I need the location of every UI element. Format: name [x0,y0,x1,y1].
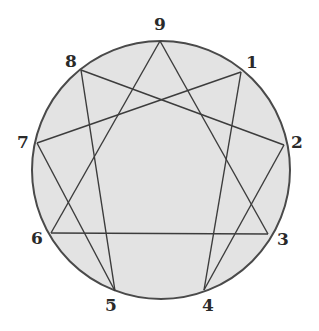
point-label-5: 5 [105,295,117,315]
point-label-4: 4 [202,295,214,315]
point-label-7: 7 [17,132,29,152]
point-label-6: 6 [31,228,43,248]
enneagram-circle [32,41,290,299]
point-label-3: 3 [277,229,289,249]
point-label-2: 2 [291,132,303,152]
enneagram-diagram: 912345678 [0,0,319,331]
point-label-1: 1 [246,52,258,72]
point-label-9: 9 [154,14,166,34]
point-label-8: 8 [65,51,77,71]
